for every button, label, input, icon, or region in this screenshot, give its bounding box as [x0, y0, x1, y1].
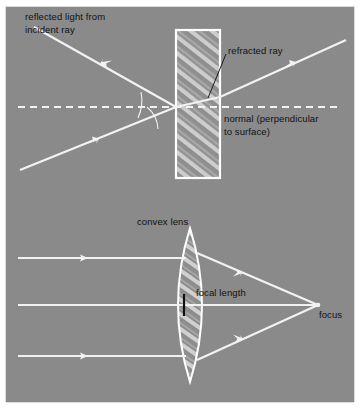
incoming-ray-bottom [18, 353, 186, 360]
incident-ray [20, 107, 176, 170]
label-normal: normal (perpendicular to surface) [224, 113, 319, 138]
label-reflected-light: reflected light from incident ray [25, 11, 105, 36]
angle-arc-upper [138, 92, 142, 118]
optics-ray-diagram-figure: reflected light from incident ray refrac… [0, 0, 360, 408]
label-refracted-ray: refracted ray [228, 45, 283, 58]
label-convex-lens: convex lens [137, 216, 188, 229]
glass-block [176, 30, 220, 178]
incoming-ray-top [18, 255, 186, 262]
focus-point [316, 303, 321, 308]
converging-ray-bottom [197, 305, 318, 360]
label-focus: focus [319, 309, 342, 322]
label-focal-length: focal length [196, 287, 246, 300]
reflected-ray [34, 27, 176, 107]
diagram-canvas [0, 0, 360, 408]
